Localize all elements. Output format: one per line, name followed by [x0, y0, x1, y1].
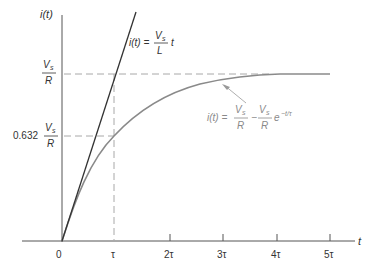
svg-text:t: t: [171, 37, 175, 48]
tick-2tau: 2τ: [164, 249, 174, 260]
tick-0: 0: [56, 249, 62, 260]
svg-text:R: R: [261, 120, 268, 131]
curve-equation: i(t) = V s R − V s R e −t/τ: [207, 104, 292, 131]
svg-text:s: s: [162, 35, 166, 42]
x-axis-label: t: [358, 235, 362, 247]
x-tick-labels: 0 τ 2τ 3τ 4τ 5τ: [56, 249, 334, 260]
svg-text:R: R: [237, 120, 244, 131]
svg-text:s: s: [50, 64, 54, 71]
svg-text:s: s: [242, 109, 246, 116]
svg-text:0.632: 0.632: [13, 130, 38, 141]
svg-text:i(t) =: i(t) =: [129, 37, 149, 48]
svg-text:−: −: [251, 112, 257, 123]
final-value-label: V s R: [42, 59, 56, 86]
svg-text:s: s: [52, 127, 56, 134]
tick-3tau: 3τ: [217, 249, 227, 260]
svg-text:R: R: [47, 138, 54, 149]
y-axis-label: i(t): [40, 8, 53, 20]
tau-value-label: 0.632 V s R: [13, 122, 58, 149]
exponential-curve: [62, 74, 330, 241]
svg-text:L: L: [157, 45, 163, 56]
tangent-line: [62, 12, 136, 241]
tick-4tau: 4τ: [271, 249, 281, 260]
tick-tau: τ: [111, 249, 115, 260]
x-ticks: [170, 234, 330, 241]
svg-text:i(t) =: i(t) =: [207, 112, 227, 123]
rl-step-response-diagram: i(t) t 0 τ 2τ 3τ 4τ 5τ V s R 0.632 V s R…: [0, 0, 372, 269]
svg-text:s: s: [266, 109, 270, 116]
tangent-equation: i(t) = V s L t: [129, 30, 175, 56]
tick-5tau: 5τ: [324, 249, 334, 260]
svg-text:R: R: [45, 75, 52, 86]
svg-text:e: e: [274, 112, 280, 123]
svg-text:−t/τ: −t/τ: [281, 110, 292, 117]
guide-lines: [64, 74, 270, 241]
